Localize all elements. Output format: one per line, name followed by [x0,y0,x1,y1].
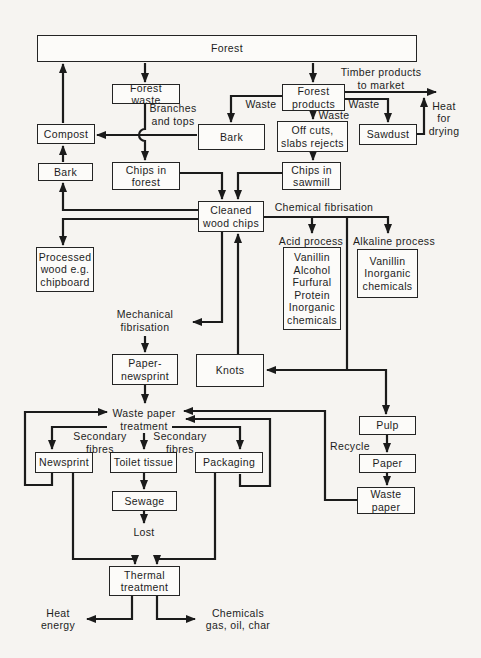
node-toilet-tissue: Toilet tissue [110,452,177,473]
node-paper: Paper [359,454,416,473]
node-processed-wood: Processed wood e.g. chipboard [36,247,94,292]
edge-cleaned-to-mechanical [193,232,222,322]
node-chemical-fibrisation: Chemical fibrisation [266,201,382,214]
node-chemicals-out: Chemicals gas, oil, char [196,606,280,632]
node-heat-for-drying: Heat for drying [423,99,465,138]
node-alkaline-process: Alkaline process [349,235,439,248]
edge-newsprint-to-thermal [73,473,135,564]
node-waste-left: Waste [239,98,283,111]
edge-packaging-to-thermal [157,473,215,564]
node-acid-process: Acid process [275,235,347,248]
node-knots: Knots [196,354,264,387]
edge-chemical-fibrisation-to-alkaline [264,217,388,233]
node-lost: Lost [126,525,162,539]
node-acid-products: Vanillin Alcohol Furfural Protein Inorga… [283,247,341,330]
edge-to-pulp [347,370,386,414]
node-paper-newsprint: Paper- newsprint [112,354,178,385]
node-recycle: Recycle [325,440,375,453]
node-chips-in-forest: Chips in forest [112,162,180,190]
node-cleaned-wood-chips: Cleaned wood chips [198,201,264,232]
edge-cleaned-to-processed-wood [63,219,198,245]
node-waste-paper-box: Waste paper [357,487,415,514]
node-waste-paper-treatment: Waste paper treatment [108,406,180,433]
node-packaging: Packaging [195,452,263,473]
node-chips-in-sawmill: Chips in sawmill [282,162,341,190]
node-pulp: Pulp [359,416,416,435]
node-secondary-fibres-left: Secondary fibres [70,430,130,455]
node-secondary-fibres-right: Secondary fibres [150,430,210,455]
node-heat-energy: Heat energy [36,606,80,632]
node-sewage: Sewage [112,491,177,511]
node-off-cuts: Off cuts, slabs rejects [277,121,348,152]
node-timber-to-market: Timber products to market [333,66,429,91]
edge-thermal-to-heat-energy [87,596,132,619]
edge-chips-in-forest-to-cleaned [180,173,222,199]
node-newsprint: Newsprint [35,452,93,473]
node-sawdust: Sawdust [359,124,417,145]
flowchart-canvas: ForestForest wasteCompostBarkForest prod… [0,0,481,658]
node-branches-and-tops: Branches and tops [145,102,201,127]
node-bark-upper: Bark [198,124,265,150]
node-thermal-treatment: Thermal treatment [109,566,180,596]
node-waste-right: Waste [342,98,386,111]
node-forest: Forest [37,35,417,62]
node-forest-waste: Forest waste [112,84,180,104]
node-compost: Compost [37,124,95,144]
edge-chips-in-sawmill-to-cleaned [238,173,282,199]
node-mechanical-fibrisation: Mechanical fibrisation [112,308,178,333]
node-alkaline-products: Vanillin Inorganic chemicals [357,249,418,298]
node-bark-lower: Bark [38,163,93,181]
edge-thermal-to-chemicals [157,596,195,619]
